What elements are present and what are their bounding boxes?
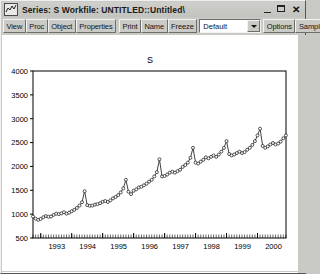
data-point [215, 155, 218, 158]
view-style-combo-value: Default [200, 22, 247, 31]
data-point [81, 201, 84, 204]
x-tick-label: 1996 [141, 242, 158, 251]
data-point [32, 215, 35, 218]
series-chart-icon [4, 3, 18, 16]
object-button[interactable]: Object [48, 19, 76, 33]
options-button[interactable]: Options [263, 19, 295, 33]
y-tick-label: 2000 [11, 162, 28, 171]
data-point [251, 143, 254, 146]
data-point [179, 168, 182, 171]
y-tick-label: 4000 [11, 67, 28, 76]
data-point [122, 187, 125, 190]
data-point [186, 161, 189, 164]
data-point [158, 158, 161, 161]
data-point [243, 151, 246, 154]
x-tick-label: 1998 [203, 242, 220, 251]
series-window: Series: S Workfile: UNTITLED::Untitled\ … [0, 0, 306, 274]
data-point [222, 146, 225, 149]
data-point [189, 156, 192, 159]
sample-button[interactable]: Sample [295, 19, 306, 33]
x-tick-label: 1997 [172, 242, 189, 251]
minimize-button[interactable] [262, 5, 273, 14]
view-button[interactable]: View [3, 19, 26, 33]
close-button[interactable]: ✕ [290, 5, 301, 14]
data-point [248, 146, 251, 149]
freeze-button[interactable]: Freeze [168, 19, 198, 33]
data-point [284, 134, 287, 137]
y-tick-label: 3000 [11, 115, 28, 124]
data-point [119, 191, 122, 194]
data-point [253, 140, 256, 143]
data-point [191, 146, 194, 149]
right-gutter [298, 35, 306, 273]
data-point [150, 178, 153, 181]
bottom-gutter [2, 271, 306, 272]
title-bar: Series: S Workfile: UNTITLED::Untitled\ … [2, 2, 305, 17]
data-point [256, 134, 259, 137]
y-tick-label: 500 [15, 234, 28, 243]
data-point [184, 164, 187, 167]
data-point [282, 137, 285, 140]
data-point [259, 127, 262, 130]
y-tick-label: 3500 [11, 91, 28, 100]
series-plot: 5001000150020002500300035004000199319941… [2, 35, 298, 273]
name-button[interactable]: Name [141, 19, 168, 33]
data-point [279, 140, 282, 143]
view-style-combo[interactable]: Default [199, 19, 261, 33]
x-tick-label: 1993 [48, 242, 65, 251]
data-point [127, 190, 130, 193]
print-button[interactable]: Print [119, 19, 141, 33]
x-tick-label: 1999 [234, 242, 251, 251]
data-point [75, 206, 78, 209]
maximize-button[interactable] [276, 5, 287, 14]
chevron-down-glyph [251, 25, 257, 28]
data-point [225, 140, 228, 143]
data-point [124, 178, 127, 181]
x-tick-label: 1995 [110, 242, 127, 251]
y-tick-label: 1500 [11, 186, 28, 195]
data-point [220, 150, 223, 153]
x-tick-label: 2000 [265, 242, 282, 251]
proc-button[interactable]: Proc [26, 19, 48, 33]
y-tick-label: 1000 [11, 210, 28, 219]
data-point [202, 158, 205, 161]
window-title: Series: S Workfile: UNTITLED::Untitled\ [22, 5, 262, 15]
data-point [217, 153, 220, 156]
x-tick-label: 1994 [79, 242, 96, 251]
chart-canvas: S 50010001500200025003000350040001993199… [2, 35, 298, 273]
data-point [153, 175, 156, 178]
toolbar: View Proc Object Properties Print Name F… [2, 18, 305, 34]
data-point [78, 204, 81, 207]
properties-button[interactable]: Properties [76, 19, 116, 33]
data-point [117, 194, 120, 197]
chevron-down-icon[interactable] [247, 20, 260, 32]
data-point [130, 193, 133, 196]
window-controls: ✕ [262, 5, 303, 14]
y-tick-label: 2500 [11, 138, 28, 147]
data-point [83, 190, 86, 193]
data-point [155, 171, 158, 174]
